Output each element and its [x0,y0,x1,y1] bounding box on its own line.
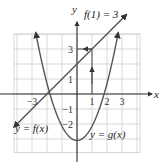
x-tick-label: −3 [27,96,38,107]
tick-labels: −312331−1−2 [27,44,125,130]
y-tick-label: 3 [68,44,73,55]
y-tick-label: −2 [62,119,73,130]
y-tick-label: −1 [62,104,73,115]
x-tick-label: 1 [90,96,95,107]
x-axis-label: x [153,88,159,100]
x-tick-label: 2 [105,96,110,107]
y-tick-label: 1 [68,74,73,85]
label-f: y = f(x) [14,122,48,135]
x-tick-label: 3 [120,96,125,107]
annotation-f1-equals-3: f(1) = 3 [84,8,119,21]
function-graph: −312331−1−2 f(1) = 3 y = f(x) y = g(x) y… [0,0,160,164]
y-axis-label: y [71,3,77,15]
label-g: y = g(x) [89,128,126,141]
